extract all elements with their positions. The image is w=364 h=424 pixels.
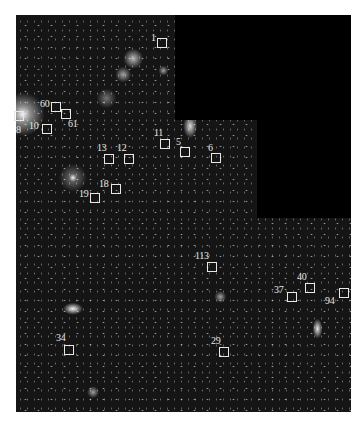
object-label-37: 37 (274, 285, 283, 295)
object-box-113 (207, 262, 217, 272)
object-box-10 (42, 124, 52, 134)
object-label-12: 12 (117, 143, 126, 153)
object-box-18 (111, 184, 121, 194)
object-label-18: 18 (99, 179, 108, 189)
object-box-40 (305, 283, 315, 293)
object-label-29: 29 (211, 336, 220, 346)
object-label-19: 19 (79, 189, 88, 199)
object-box-6 (211, 153, 221, 163)
object-box-5 (180, 147, 190, 157)
object-label-94: 94 (325, 296, 334, 306)
object-box-8 (14, 111, 24, 121)
object-box-12 (124, 154, 134, 164)
masked-region-top (175, 15, 351, 120)
object-box-1 (157, 38, 167, 48)
object-label-13: 13 (97, 143, 106, 153)
masked-region-right (257, 120, 351, 218)
object-box-37 (287, 292, 297, 302)
object-label-60: 60 (40, 99, 49, 109)
object-box-13 (104, 154, 114, 164)
object-box-19 (90, 193, 100, 203)
object-box-60 (51, 102, 61, 112)
object-label-34: 34 (56, 333, 65, 343)
object-label-11: 11 (154, 128, 163, 138)
object-label-1: 1 (151, 33, 156, 43)
object-label-40: 40 (297, 272, 306, 282)
object-label-6: 6 (208, 143, 213, 153)
object-label-5: 5 (176, 137, 181, 147)
object-label-61: 61 (68, 119, 77, 129)
object-box-94 (339, 288, 349, 298)
object-label-8: 8 (16, 125, 21, 135)
object-box-29 (219, 347, 229, 357)
object-box-34 (64, 345, 74, 355)
object-box-11 (160, 139, 170, 149)
object-label-113: 113 (195, 251, 209, 261)
object-label-10: 10 (29, 121, 38, 131)
